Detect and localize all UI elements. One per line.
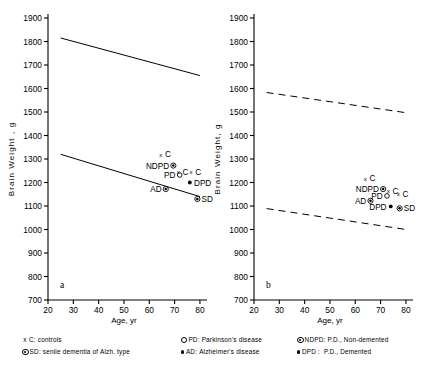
x-tick-label-b: 50 [325,305,335,315]
x-tick-label-b: 60 [351,305,361,315]
marker-open-circle-icon [385,194,390,199]
data-point-ad-a[interactable]: AD [150,185,168,194]
legend-code: NDPD [305,336,324,343]
data-point-label: C [403,190,409,199]
data-point-label: SD [404,204,415,213]
marker-filled-dot-icon [297,350,300,353]
y-tick-label-b: 1700 [229,60,248,70]
data-point-ndpd-a[interactable]: NDPD [146,162,176,171]
y-tick-label-a: 700 [28,295,42,305]
y-tick-label-a: 1700 [23,60,42,70]
legend-description: senile dementia of Alzh. type [41,348,130,355]
y-tick-label-a: 1900 [23,13,42,23]
data-point-c-a[interactable]: xC [177,168,189,177]
x-tick-label-a: 50 [119,305,129,315]
upper-regression-line-a [61,38,200,76]
x-tick-label-a: 70 [170,305,180,315]
y-tick-label-b: 1800 [229,37,248,47]
panel-b: 7008009001000110012001300140015001600170… [206,0,419,330]
data-point-label: DPD [369,203,386,212]
y-tick-label-b: 1200 [229,178,248,188]
data-point-sd-b[interactable]: SD [397,204,415,213]
data-point-label: C [183,168,189,177]
data-point-label: PD [164,171,175,180]
lower-regression-line-b [267,209,406,230]
y-tick-label-a: 1800 [23,37,42,47]
data-point-c-a[interactable]: xC [190,168,202,177]
y-tick-label-b: 1900 [229,13,248,23]
marker-filled-dot-icon [181,350,184,353]
marker-filled-dot-icon [389,205,393,209]
x-axis-label-a: Age, yr [111,316,137,325]
y-tick-label-b: 1600 [229,84,248,94]
legend-code: DPD [302,348,316,355]
x-tick-label-a: 20 [43,305,53,315]
marker-open-circle-icon [181,337,187,343]
marker-circled-dot-center-icon [172,164,175,167]
data-point-label: C [370,174,376,183]
legend-column-1: xC: controlsSD: senile dementia of Alzh.… [22,334,130,358]
panel-a: 7008009001000110012001300140015001600170… [0,0,213,330]
data-point-pd-b[interactable]: PD [371,192,389,201]
marker-x-icon: x [159,151,163,158]
y-tick-label-a: 1200 [23,178,42,188]
y-tick-label-b: 1100 [230,201,248,211]
marker-circled-dot-center-icon [398,207,401,210]
marker-circled-dot-icon [297,337,304,344]
lower-regression-line-a [61,154,200,196]
marker-x-icon: x [364,175,368,182]
panel-letter-a: a [60,280,65,290]
marker-x-icon: x [190,168,194,175]
data-point-label: NDPD [146,162,169,171]
marker-filled-dot-icon [188,181,192,185]
legend-entry-dpd: DPD : P.D., Demented [297,346,389,358]
legend-code: PD [188,336,197,343]
y-tick-label-a: 1400 [23,131,42,141]
figure-root: 7008009001000110012001300140015001600170… [0,0,425,368]
marker-x-icon: x [397,190,401,197]
marker-circled-dot-center-icon [382,188,385,191]
panel-letter-b: b [266,280,271,290]
marker-circled-dot-center-icon [165,188,168,191]
x-tick-label-a: 80 [195,305,205,315]
figure-legend: xC: controlsSD: senile dementia of Alzh.… [0,332,425,368]
x-tick-label-a: 40 [94,305,104,315]
data-point-c-a[interactable]: xC [159,150,171,159]
data-point-c-b[interactable]: xC [397,190,409,199]
plot-area-b: 7008009001000110012001300140015001600170… [206,0,419,330]
x-tick-label-b: 80 [401,305,411,315]
data-point-dpd-b[interactable]: DPD [369,203,392,212]
x-axis-label-b: Age, yr [317,316,343,325]
upper-regression-line-b [267,92,406,112]
y-tick-label-a: 1100 [24,201,42,211]
data-point-pd-a[interactable]: PD [164,171,182,180]
y-tick-label-a: 1500 [23,107,42,117]
y-tick-label-b: 700 [234,295,248,305]
x-tick-label-a: 60 [145,305,155,315]
legend-code: SD [30,348,39,355]
marker-x-icon: x [387,187,391,194]
legend-entry-ad: AD: Alzheimer's disease [181,346,262,358]
y-tick-label-b: 1300 [229,154,248,164]
x-tick-label-b: 70 [376,305,386,315]
data-point-label: AD [355,197,366,206]
y-tick-label-b: 1400 [229,131,248,141]
legend-description: P.D., Demented [322,348,371,355]
y-tick-label-a: 1600 [23,84,42,94]
y-tick-label-a: 900 [28,248,42,258]
plot-area-a: 7008009001000110012001300140015001600170… [0,0,213,330]
x-tick-label-b: 30 [275,305,285,315]
data-point-c-b[interactable]: xC [364,174,376,183]
legend-column-3: NDPD: P.D., Non-dementedDPD : P.D., Deme… [297,334,389,358]
y-tick-label-a: 1000 [23,225,42,235]
marker-circled-dot-icon [22,349,29,356]
x-tick-label-b: 20 [249,305,259,315]
y-tick-label-a: 800 [28,272,42,282]
y-tick-label-b: 1500 [229,107,248,117]
marker-x-icon: x [22,337,28,343]
y-tick-label-b: 800 [234,272,248,282]
data-point-label: C [165,150,171,159]
legend-entry-c: xC: controls [22,334,130,346]
y-tick-label-b: 900 [234,248,248,258]
legend-description: Parkinson's disease [200,336,262,343]
